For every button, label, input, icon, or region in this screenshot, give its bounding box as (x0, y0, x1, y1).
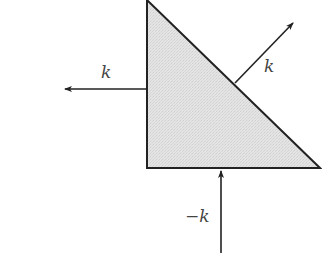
diagram-canvas: k k −k (0, 0, 322, 264)
diagram-svg (0, 0, 322, 264)
left-arrow-label: k (101, 64, 111, 81)
diagonal-arrow-label: k (264, 58, 274, 75)
bottom-arrow-label: −k (185, 208, 210, 225)
triangle-prism (147, 0, 320, 168)
